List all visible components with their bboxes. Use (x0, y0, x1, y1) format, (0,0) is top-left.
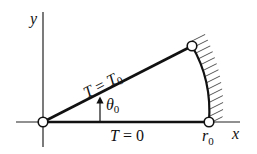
radius-label: r0 (202, 127, 214, 147)
x-axis-label: x (231, 125, 239, 142)
upper-edge-label: T = T0 (81, 67, 126, 102)
origin-node (38, 117, 48, 127)
y-axis-label: y (28, 10, 38, 28)
lower-edge-label: T = 0 (110, 127, 144, 144)
top-node (187, 41, 197, 51)
wedge-diagram: y x T = T0 T = 0 θ0 r0 (0, 0, 257, 154)
right-node (204, 117, 214, 127)
angle-label: θ0 (106, 96, 120, 115)
